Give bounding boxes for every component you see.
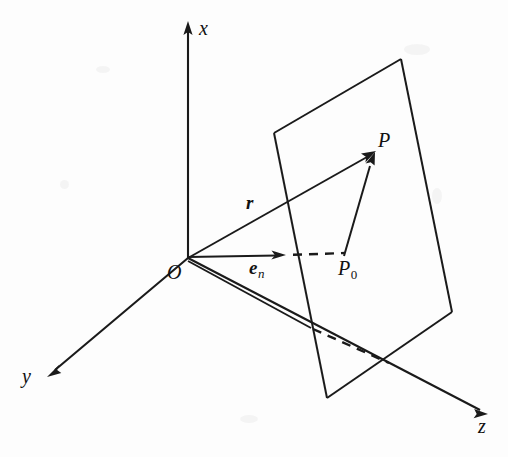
figure-container: x y z O P P0 r en xyxy=(0,0,508,457)
axis-group xyxy=(47,21,488,418)
plane-edge-right xyxy=(401,59,452,312)
point-p0-subscript: 0 xyxy=(350,267,357,282)
point-p0-base: P xyxy=(338,257,350,279)
p0-to-p-shaft xyxy=(344,166,370,256)
unit-normal-vector-label: en xyxy=(249,258,264,280)
lower-hidden-dashed-line xyxy=(313,329,389,363)
origin-label: O xyxy=(167,262,181,282)
plane-polygon xyxy=(274,59,452,398)
vector-plane-diagram xyxy=(0,0,508,457)
position-vector-label: r xyxy=(246,193,253,212)
unit-normal-vector-en xyxy=(188,251,286,260)
z-axis-label: z xyxy=(478,416,486,436)
en-vector-shaft xyxy=(188,256,277,258)
z-axis-line xyxy=(188,258,480,410)
r-vector-shaft xyxy=(188,157,367,258)
point-p-label: P xyxy=(378,130,390,150)
en-subscript: n xyxy=(257,266,264,281)
en-to-p0-dashed-line xyxy=(293,253,345,255)
plane-edge-top xyxy=(274,59,401,133)
point-p0-label: P0 xyxy=(338,258,357,281)
y-axis-label: y xyxy=(22,366,31,386)
plane-edge-left xyxy=(274,133,327,398)
x-axis-label: x xyxy=(199,18,208,38)
